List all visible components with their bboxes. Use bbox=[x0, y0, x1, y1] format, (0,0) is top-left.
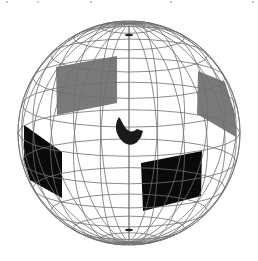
edge-mark bbox=[252, 1, 254, 3]
south-pole-marker bbox=[125, 229, 133, 231]
lower-left-black-panel bbox=[24, 125, 62, 198]
edge-mark bbox=[90, 1, 92, 3]
meridian-line bbox=[22, 23, 129, 242]
lower-right-black-panel bbox=[141, 151, 202, 211]
meridian-line bbox=[22, 23, 129, 242]
edge-mark bbox=[170, 1, 172, 3]
north-pole-marker bbox=[125, 34, 133, 36]
edge-mark bbox=[37, 1, 39, 3]
central-object bbox=[116, 117, 143, 145]
wireframe-sphere-diagram bbox=[0, 0, 258, 261]
central-crescent-object bbox=[116, 117, 143, 145]
edge-mark bbox=[6, 1, 8, 3]
top-edge-artifacts bbox=[6, 1, 254, 3]
